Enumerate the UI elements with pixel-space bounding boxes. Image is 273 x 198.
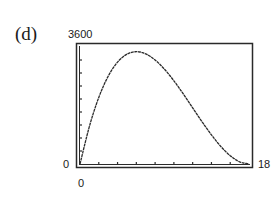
chart-plot [0,0,273,198]
data-curve [80,52,249,164]
graph-frame [77,44,253,168]
axis-ticks [79,60,230,165]
